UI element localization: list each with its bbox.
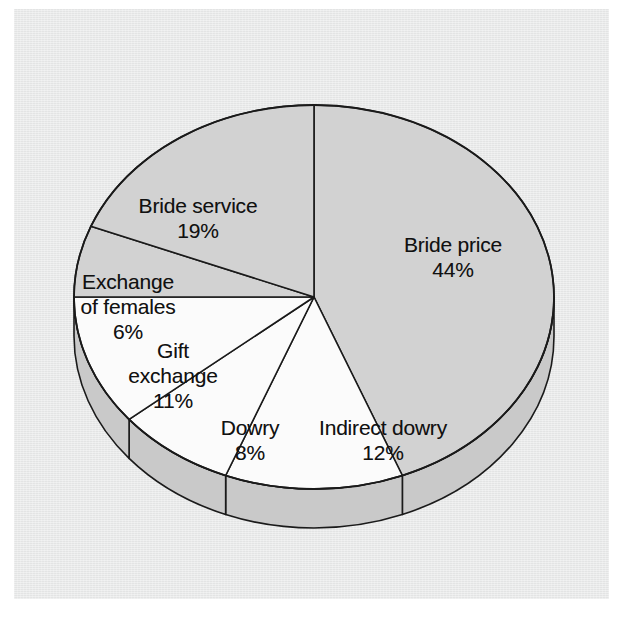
slice-name-indirect-dowry: Indirect dowry bbox=[288, 415, 478, 440]
slice-name-exchange-of-females-line2: of females bbox=[66, 294, 190, 319]
slice-percent-bride-service: 19% bbox=[110, 218, 286, 243]
slice-percent-indirect-dowry: 12% bbox=[288, 440, 478, 465]
slice-label-exchange-of-females: Exchange of females 6% bbox=[66, 269, 190, 344]
slice-label-gift-exchange: Gift exchange 11% bbox=[113, 338, 233, 413]
slice-percent-bride-price: 44% bbox=[368, 257, 538, 282]
chart-page: Bride price 44% Indirect dowry 12% Dowry… bbox=[0, 0, 622, 623]
slice-name-exchange-of-females-line1: Exchange bbox=[66, 269, 190, 294]
slice-percent-gift-exchange: 11% bbox=[113, 388, 233, 413]
slice-name-bride-service: Bride service bbox=[110, 193, 286, 218]
slice-percent-dowry: 8% bbox=[212, 440, 288, 465]
slice-name-dowry: Dowry bbox=[212, 415, 288, 440]
slice-label-bride-service: Bride service 19% bbox=[110, 193, 286, 243]
slice-label-dowry: Dowry 8% bbox=[212, 415, 288, 465]
slice-label-bride-price: Bride price 44% bbox=[368, 232, 538, 282]
slice-name-gift-exchange-line2: exchange bbox=[113, 363, 233, 388]
slice-name-bride-price: Bride price bbox=[368, 232, 538, 257]
slice-label-indirect-dowry: Indirect dowry 12% bbox=[288, 415, 478, 465]
slice-percent-exchange-of-females: 6% bbox=[66, 319, 190, 344]
